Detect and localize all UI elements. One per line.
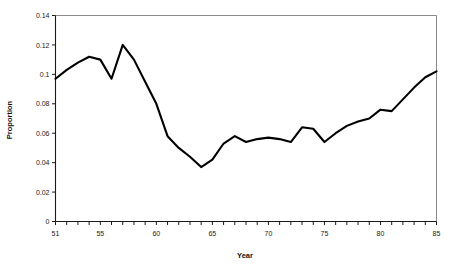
chart-canvas: 00.020.040.060.080.10.120.14 51556065707… (0, 0, 461, 264)
y-tick-label: 0.04 (36, 159, 50, 166)
x-tick-label: 85 (433, 230, 441, 237)
x-tick-label: 65 (208, 230, 216, 237)
y-tick-label: 0.08 (36, 100, 50, 107)
y-tick-label: 0.14 (36, 12, 50, 19)
data-series-proportion (56, 45, 437, 167)
plot-area-border (56, 16, 437, 222)
x-tick-label: 55 (96, 230, 104, 237)
x-axis: 5155606570758085 (52, 222, 441, 237)
y-axis-title: Proportion (5, 100, 14, 139)
x-axis-title: Year (237, 251, 253, 260)
y-tick-label: 0 (46, 218, 50, 225)
line-chart-figure: 00.020.040.060.080.10.120.14 51556065707… (0, 0, 461, 264)
x-tick-label: 70 (265, 230, 273, 237)
y-tick-label: 0.1 (40, 71, 50, 78)
x-tick-label: 60 (152, 230, 160, 237)
y-axis: 00.020.040.060.080.10.120.14 (36, 12, 56, 225)
x-tick-label: 75 (321, 230, 329, 237)
x-tick-label: 80 (377, 230, 385, 237)
y-tick-label: 0.06 (36, 130, 50, 137)
y-tick-label: 0.02 (36, 189, 50, 196)
y-tick-label: 0.12 (36, 42, 50, 49)
x-tick-label: 51 (52, 230, 60, 237)
